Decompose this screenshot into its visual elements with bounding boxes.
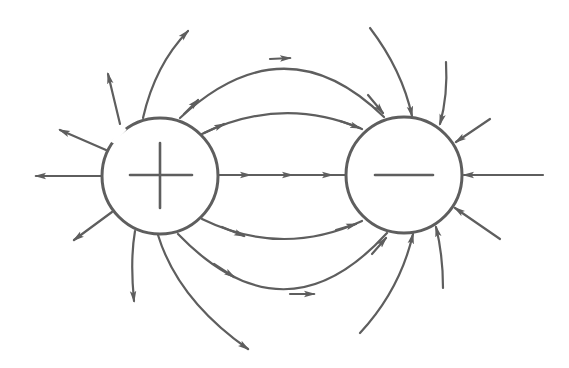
electric-dipole-field-diagram: + − [0,0,569,368]
negative-charge-sign: − [0,0,13,4]
negative-charge: − [0,0,462,233]
